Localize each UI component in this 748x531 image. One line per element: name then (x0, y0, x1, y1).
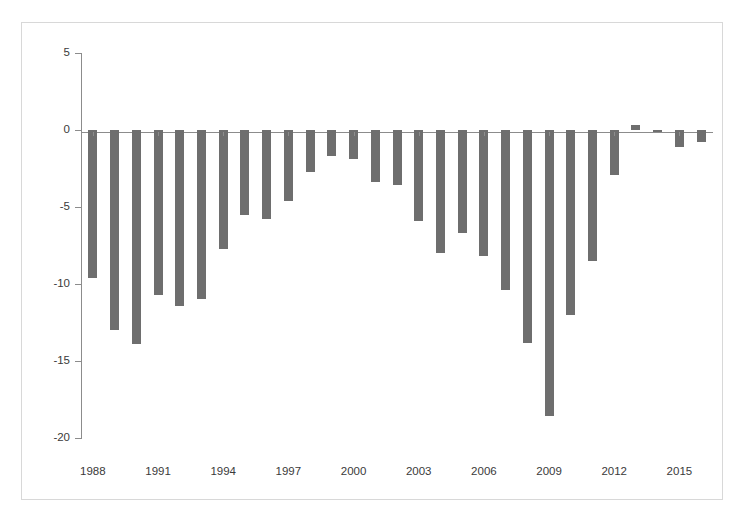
bar (697, 130, 706, 142)
bar (653, 130, 662, 132)
bar (479, 130, 488, 256)
bar (306, 130, 315, 172)
x-tick-mark (614, 132, 615, 136)
y-tick-mark (75, 207, 81, 208)
bar (197, 130, 206, 299)
x-tick-mark (549, 132, 550, 136)
bar (393, 130, 402, 185)
bar (588, 130, 597, 261)
bar (458, 130, 467, 233)
x-tick-mark (419, 132, 420, 136)
y-tick-label: 5 (30, 47, 70, 59)
x-tick-label: 2000 (324, 466, 384, 478)
x-tick-label: 1997 (258, 466, 318, 478)
x-tick-label: 2015 (649, 466, 709, 478)
y-axis-spine (81, 53, 82, 439)
y-tick-mark (75, 284, 81, 285)
x-tick-mark (484, 132, 485, 136)
y-tick-label: -20 (30, 432, 70, 444)
y-tick-label: -5 (30, 201, 70, 213)
bar (284, 130, 293, 201)
bar (436, 130, 445, 253)
bar (523, 130, 532, 343)
figure-canvas: 50-5-10-15-20 19881991199419972000200320… (0, 0, 748, 531)
y-tick-mark (75, 438, 81, 439)
x-tick-label: 2009 (519, 466, 579, 478)
x-tick-label: 2012 (584, 466, 644, 478)
bar (154, 130, 163, 295)
bar (240, 130, 249, 215)
y-tick-label: -15 (30, 355, 70, 367)
bar (371, 130, 380, 182)
bar (132, 130, 141, 344)
y-tick-mark (75, 53, 81, 54)
y-tick-label: -10 (30, 278, 70, 290)
x-tick-mark (93, 132, 94, 136)
x-tick-mark (288, 132, 289, 136)
y-tick-mark (75, 130, 81, 131)
x-tick-mark (223, 132, 224, 136)
y-tick-label: 0 (30, 124, 70, 136)
bar (219, 130, 228, 249)
bar (610, 130, 619, 175)
bar (110, 130, 119, 330)
x-tick-label: 2003 (389, 466, 449, 478)
bar (175, 130, 184, 306)
x-tick-mark (158, 132, 159, 136)
x-tick-label: 2006 (454, 466, 514, 478)
x-tick-label: 1988 (63, 466, 123, 478)
bar (262, 130, 271, 219)
bar (88, 130, 97, 278)
bar (631, 125, 640, 130)
bar (327, 130, 336, 156)
x-tick-mark (354, 132, 355, 136)
x-tick-label: 1994 (193, 466, 253, 478)
bar (545, 130, 554, 416)
bar (501, 130, 510, 290)
figure-frame (21, 22, 723, 500)
y-tick-mark (75, 361, 81, 362)
bar (414, 130, 423, 221)
bar (566, 130, 575, 315)
x-tick-mark (679, 132, 680, 136)
x-tick-label: 1991 (128, 466, 188, 478)
